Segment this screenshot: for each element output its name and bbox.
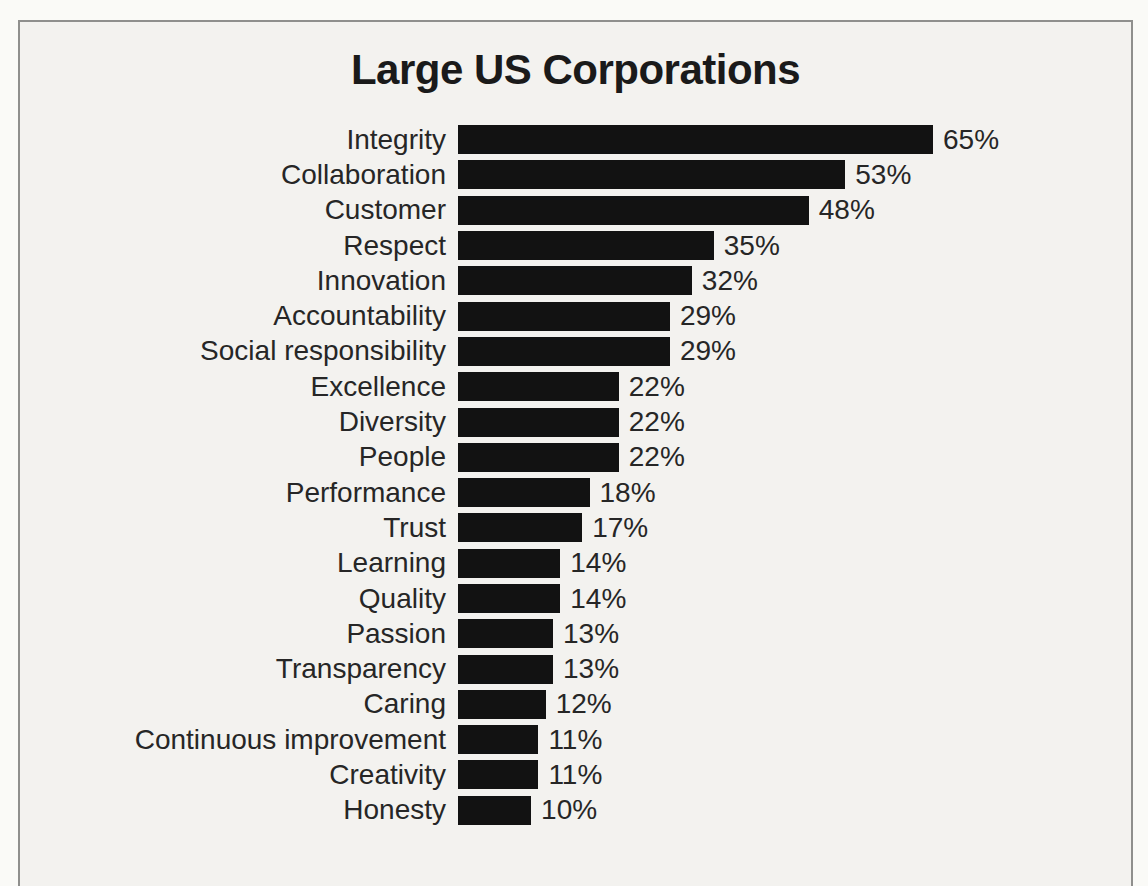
category-label: Learning bbox=[20, 547, 458, 579]
bar bbox=[458, 690, 546, 719]
chart-row: Customer48% bbox=[20, 193, 1130, 228]
category-label: Collaboration bbox=[20, 159, 458, 191]
category-label: Caring bbox=[20, 688, 458, 720]
bar bbox=[458, 196, 809, 225]
value-label: 13% bbox=[563, 618, 619, 650]
chart-row: Learning14% bbox=[20, 546, 1130, 581]
chart-title: Large US Corporations bbox=[20, 46, 1131, 94]
value-label: 18% bbox=[600, 477, 656, 509]
chart-row: Diversity22% bbox=[20, 404, 1130, 439]
value-label: 53% bbox=[855, 159, 911, 191]
scanned-page: Large US Corporations Integrity65%Collab… bbox=[0, 0, 1148, 886]
category-label: Transparency bbox=[20, 653, 458, 685]
value-label: 14% bbox=[570, 547, 626, 579]
value-label: 65% bbox=[943, 124, 999, 156]
category-label: Innovation bbox=[20, 265, 458, 297]
bar bbox=[458, 760, 538, 789]
bar bbox=[458, 513, 582, 542]
category-label: People bbox=[20, 441, 458, 473]
category-label: Continuous improvement bbox=[20, 724, 458, 756]
bar bbox=[458, 231, 714, 260]
chart-row: Quality14% bbox=[20, 581, 1130, 616]
bar bbox=[458, 372, 619, 401]
chart-row: Caring12% bbox=[20, 687, 1130, 722]
category-label: Accountability bbox=[20, 300, 458, 332]
category-label: Integrity bbox=[20, 124, 458, 156]
value-label: 29% bbox=[680, 300, 736, 332]
bar bbox=[458, 655, 553, 684]
category-label: Trust bbox=[20, 512, 458, 544]
bar bbox=[458, 725, 538, 754]
chart-row: Accountability29% bbox=[20, 298, 1130, 333]
value-label: 35% bbox=[724, 230, 780, 262]
value-label: 11% bbox=[548, 759, 602, 791]
chart-row: Transparency13% bbox=[20, 651, 1130, 686]
chart-row: Social responsibility29% bbox=[20, 334, 1130, 369]
value-label: 11% bbox=[548, 724, 602, 756]
chart-row: People22% bbox=[20, 440, 1130, 475]
chart-row: Performance18% bbox=[20, 475, 1130, 510]
category-label: Quality bbox=[20, 583, 458, 615]
chart-row: Excellence22% bbox=[20, 369, 1130, 404]
bar bbox=[458, 796, 531, 825]
chart-row: Continuous improvement11% bbox=[20, 722, 1130, 757]
value-label: 10% bbox=[541, 794, 597, 826]
chart-row: Honesty10% bbox=[20, 793, 1130, 828]
bar bbox=[458, 443, 619, 472]
chart-row: Passion13% bbox=[20, 616, 1130, 651]
value-label: 32% bbox=[702, 265, 758, 297]
category-label: Respect bbox=[20, 230, 458, 262]
bar bbox=[458, 302, 670, 331]
category-label: Passion bbox=[20, 618, 458, 650]
value-label: 13% bbox=[563, 653, 619, 685]
value-label: 12% bbox=[556, 688, 612, 720]
bar-chart: Integrity65%Collaboration53%Customer48%R… bbox=[20, 122, 1130, 828]
chart-row: Trust17% bbox=[20, 510, 1130, 545]
value-label: 29% bbox=[680, 335, 736, 367]
category-label: Performance bbox=[20, 477, 458, 509]
chart-row: Creativity11% bbox=[20, 757, 1130, 792]
category-label: Excellence bbox=[20, 371, 458, 403]
category-label: Diversity bbox=[20, 406, 458, 438]
chart-row: Respect35% bbox=[20, 228, 1130, 263]
chart-row: Integrity65% bbox=[20, 122, 1130, 157]
value-label: 22% bbox=[629, 371, 685, 403]
bar bbox=[458, 584, 560, 613]
value-label: 22% bbox=[629, 441, 685, 473]
value-label: 17% bbox=[592, 512, 648, 544]
bar bbox=[458, 160, 845, 189]
chart-row: Innovation32% bbox=[20, 263, 1130, 298]
bar bbox=[458, 337, 670, 366]
bar bbox=[458, 619, 553, 648]
category-label: Creativity bbox=[20, 759, 458, 791]
value-label: 14% bbox=[570, 583, 626, 615]
value-label: 48% bbox=[819, 194, 875, 226]
bar bbox=[458, 478, 590, 507]
category-label: Social responsibility bbox=[20, 335, 458, 367]
bar bbox=[458, 549, 560, 578]
chart-row: Collaboration53% bbox=[20, 157, 1130, 192]
bar bbox=[458, 125, 933, 154]
bar bbox=[458, 266, 692, 295]
category-label: Honesty bbox=[20, 794, 458, 826]
value-label: 22% bbox=[629, 406, 685, 438]
category-label: Customer bbox=[20, 194, 458, 226]
bar bbox=[458, 408, 619, 437]
